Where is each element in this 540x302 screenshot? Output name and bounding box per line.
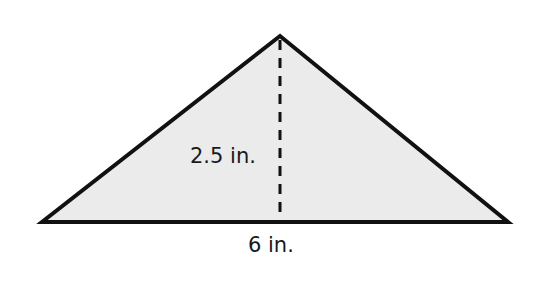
base-label: 6 in. — [248, 233, 294, 257]
triangle — [42, 36, 508, 222]
height-label: 2.5 in. — [190, 144, 256, 168]
triangle-diagram: 2.5 in. 6 in. — [0, 0, 540, 302]
